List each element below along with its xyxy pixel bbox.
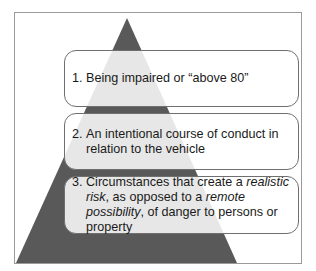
level-text: Being impaired or “above 80” (86, 71, 248, 86)
pyramid-level-2: 2. An intentional course of conduct inre… (64, 113, 299, 170)
text-segment: , as opposed to a (106, 190, 206, 204)
level-text: Circumstances that create a realistic ri… (86, 175, 292, 235)
level-text-line: relation to the vehicle (86, 142, 205, 156)
level-number: 2. (72, 127, 86, 157)
level-text-line: An intentional course of conduct in (86, 127, 279, 141)
pyramid-level-3: 3. Circumstances that create a realistic… (64, 176, 299, 234)
level-number: 1. (72, 71, 86, 86)
level-text: An intentional course of conduct inrelat… (86, 127, 279, 157)
pyramid-level-1: 1. Being impaired or “above 80” (64, 50, 299, 107)
text-segment: Circumstances that create a (86, 175, 246, 189)
level-number: 3. (72, 175, 86, 235)
